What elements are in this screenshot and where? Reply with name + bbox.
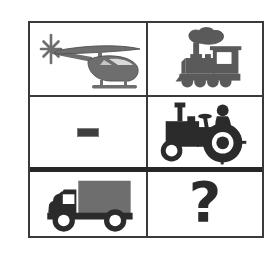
tractor-icon — [148, 97, 262, 167]
helicopter-icon — [30, 23, 146, 95]
dash-mark-icon — [77, 128, 99, 137]
matrix-grid: ? — [28, 21, 264, 238]
matrix-cell-row2-col1[interactable] — [30, 97, 146, 167]
matrix-cell-row3-col2[interactable]: ? — [146, 172, 262, 236]
steam-train-icon — [148, 23, 262, 95]
question-mark-icon: ? — [189, 174, 221, 230]
matrix-cell-row1-col1[interactable] — [30, 23, 146, 95]
puzzle-root: ? — [0, 0, 273, 256]
matrix-row — [30, 23, 262, 95]
matrix-cell-row2-col2[interactable] — [146, 97, 262, 167]
matrix-cell-row1-col2[interactable] — [146, 23, 262, 95]
matrix-row — [30, 95, 262, 167]
matrix-row: ? — [30, 167, 262, 236]
matrix-cell-row3-col1[interactable] — [30, 172, 146, 236]
box-truck-icon — [30, 172, 146, 236]
